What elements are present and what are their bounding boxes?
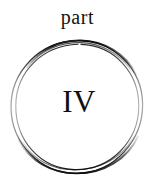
part-number: IV <box>0 86 155 118</box>
part-title-page: part <box>0 0 155 184</box>
page-title: part <box>0 6 155 28</box>
